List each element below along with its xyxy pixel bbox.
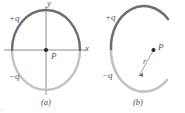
point-p-label-b: P: [158, 43, 164, 52]
negative-charge-label-a: −q: [9, 72, 20, 81]
negative-charge-label-b: −q: [102, 71, 113, 80]
point-p-label-a: P: [51, 52, 57, 61]
panel-a: y x +q −q P (a): [0, 0, 92, 113]
panel-b: +q −q P r (b): [92, 0, 184, 113]
radius-label: r: [143, 58, 146, 66]
positive-charge-label-a: +q: [9, 14, 20, 23]
corner-mark: .: [1, 104, 3, 112]
x-axis-label: x: [85, 44, 89, 53]
arc-negative: [111, 49, 167, 92]
point-p-marker-b: [151, 48, 155, 52]
positive-charge-label-b: +q: [105, 13, 116, 22]
point-p-marker: [44, 48, 48, 52]
physics-figure: y x +q −q P (a) +q −q P r (b) .: [0, 0, 185, 113]
caption-b: (b): [92, 97, 184, 107]
y-axis-label: y: [47, 0, 51, 8]
caption-a: (a): [0, 97, 92, 107]
